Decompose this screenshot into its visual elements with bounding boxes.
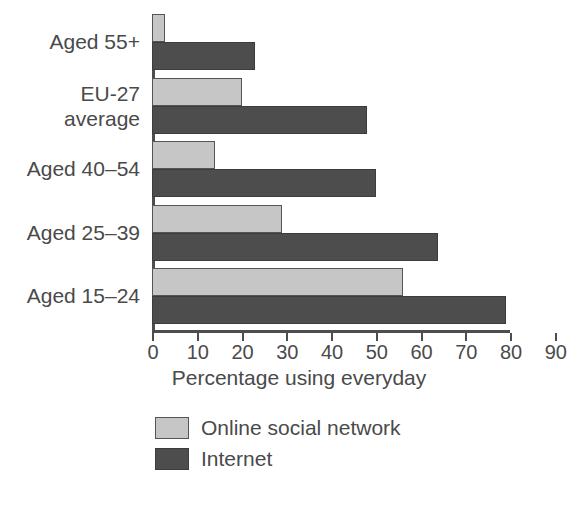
x-tick-label-70: 70 (455, 341, 477, 364)
legend-label-online-social-network: Online social network (201, 416, 401, 440)
bar-aged-55-online-social-network (152, 14, 165, 42)
bar-group-aged-40-54 (152, 141, 552, 197)
bar-eu-27-average-online-social-network (152, 78, 242, 106)
bar-aged-25-39-online-social-network (152, 205, 282, 233)
legend-item-internet: Internet (155, 443, 401, 474)
legend-label-internet: Internet (201, 447, 272, 471)
legend-swatch-icon-internet (155, 448, 189, 470)
x-axis-title-text: Percentage using everyday (172, 366, 427, 389)
bar-eu-27-average-internet (152, 106, 367, 134)
category-label-aged-25-39: Aged 25–39 (8, 220, 140, 245)
bar-aged-40-54-online-social-network (152, 141, 215, 169)
x-tick-50 (376, 333, 378, 341)
bar-group-aged-25-39 (152, 205, 552, 261)
x-tick-40 (331, 333, 333, 341)
category-label-aged-55: Aged 55+ (8, 29, 140, 54)
bar-group-aged-15-24 (152, 268, 552, 324)
x-tick-label-20: 20 (231, 341, 253, 364)
x-tick-label-40: 40 (321, 341, 343, 364)
legend-swatch-icon-online-social-network (155, 417, 189, 439)
bar-aged-55-internet (152, 42, 255, 70)
category-label-eu-27-average: EU-27 average (8, 81, 140, 131)
x-tick-label-60: 60 (410, 341, 432, 364)
x-tick-label-30: 30 (276, 341, 298, 364)
x-tick-label-90: 90 (545, 341, 567, 364)
bar-group-aged-55 (152, 14, 552, 70)
x-tick-label-10: 10 (187, 341, 209, 364)
legend-item-online-social-network: Online social network (155, 412, 401, 443)
x-tick-label-50: 50 (366, 341, 388, 364)
x-tick-label-80: 80 (500, 341, 522, 364)
x-tick-80 (510, 333, 512, 341)
bar-aged-40-54-internet (152, 169, 376, 197)
legend: Online social network Internet (155, 412, 401, 474)
x-tick-60 (421, 333, 423, 341)
x-tick-20 (242, 333, 244, 341)
x-axis-title: Percentage using everyday (0, 366, 574, 390)
x-tick-70 (465, 333, 467, 341)
x-tick-30 (286, 333, 288, 341)
bar-aged-15-24-internet (152, 296, 506, 324)
bar-aged-25-39-internet (152, 233, 438, 261)
category-label-aged-15-24: Aged 15–24 (8, 283, 140, 308)
x-tick-10 (197, 333, 199, 341)
bar-group-eu-27-average (152, 78, 552, 134)
x-tick-label-0: 0 (147, 341, 158, 364)
plot-area: 0102030405060708090 Aged 55+EU-27 averag… (0, 0, 574, 340)
x-tick-90 (555, 333, 557, 341)
x-tick-0 (152, 333, 154, 341)
bar-chart: 0102030405060708090 Aged 55+EU-27 averag… (0, 0, 574, 508)
bar-aged-15-24-online-social-network (152, 268, 403, 296)
category-label-aged-40-54: Aged 40–54 (8, 156, 140, 181)
